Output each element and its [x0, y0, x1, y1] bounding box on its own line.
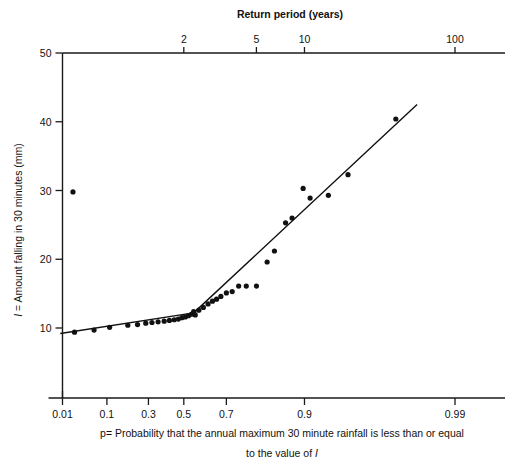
- data-point: [135, 322, 140, 327]
- x-axis-caption-line-1: p= Probability that the annual maximum 3…: [100, 427, 464, 439]
- top-axis-tick-label: 5: [253, 33, 259, 45]
- data-point: [308, 195, 313, 200]
- data-point: [193, 312, 198, 317]
- data-point: [201, 305, 206, 310]
- y-axis-tick-label: 50: [40, 47, 52, 59]
- data-point: [125, 323, 130, 328]
- data-point: [301, 186, 306, 191]
- data-point: [236, 283, 241, 288]
- y-axis-title-group: I = Amount falling in 30 minutes (mm): [12, 143, 24, 317]
- data-point: [289, 215, 294, 220]
- top-axis-tick-label: 100: [446, 33, 464, 45]
- y-axis-tick-label: 30: [40, 185, 52, 197]
- data-point: [224, 290, 229, 295]
- x-axis-tick-label: 0.9: [297, 408, 312, 420]
- data-point: [244, 283, 249, 288]
- data-point: [345, 172, 350, 177]
- x-axis-tick-label: 0.01: [52, 408, 73, 420]
- x-axis-tick-label: 0.1: [100, 408, 115, 420]
- data-point: [70, 189, 75, 194]
- y-axis-tick-label: 20: [40, 253, 52, 265]
- data-point: [167, 318, 172, 323]
- chart-figure: Return period (years) 2510100 1020304050…: [0, 0, 518, 463]
- data-point: [205, 301, 210, 306]
- data-point: [272, 248, 277, 253]
- y-axis-title-text: = Amount falling in 30 minutes (mm): [12, 143, 24, 314]
- data-point: [143, 321, 148, 326]
- data-point: [72, 330, 77, 335]
- x-axis-caption-symbol: I: [315, 447, 318, 459]
- rainfall-probability-plot: Return period (years) 2510100 1020304050…: [0, 0, 518, 463]
- y-axis-tick-label: 40: [40, 116, 52, 128]
- x-axis-tick-label: 0.3: [141, 408, 156, 420]
- data-point: [91, 327, 96, 332]
- data-point: [218, 294, 223, 299]
- x-axis-caption-line-2-text: to the value of: [246, 447, 315, 459]
- data-point: [393, 116, 398, 121]
- x-axis-tick-label: 0.99: [445, 408, 466, 420]
- data-point: [326, 193, 331, 198]
- figure-background: [0, 0, 518, 463]
- x-axis-tick-label: 0.5: [177, 408, 192, 420]
- data-point: [107, 325, 112, 330]
- data-point: [254, 283, 259, 288]
- x-axis-tick-label: 0.7: [219, 408, 234, 420]
- data-point: [162, 319, 167, 324]
- x-axis-caption-line-2: to the value of I: [246, 447, 318, 459]
- data-point: [155, 319, 160, 324]
- data-point: [149, 320, 154, 325]
- data-point: [214, 297, 219, 302]
- top-axis-tick-label: 2: [181, 33, 187, 45]
- top-axis-title: Return period (years): [237, 8, 343, 20]
- y-axis-tick-label: 10: [40, 322, 52, 334]
- top-axis-tick-label: 10: [299, 33, 311, 45]
- data-point: [283, 220, 288, 225]
- data-point: [196, 308, 201, 313]
- data-point: [230, 289, 235, 294]
- data-point: [265, 259, 270, 264]
- y-axis-title: I = Amount falling in 30 minutes (mm): [12, 143, 24, 317]
